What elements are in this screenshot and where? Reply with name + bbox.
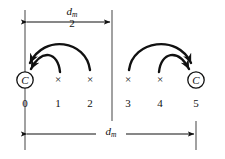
dimension-label-bottom: dm <box>96 126 126 137</box>
position-label-5: 5 <box>188 98 204 109</box>
diagram-canvas: dm 2 dm C × × × × C 0 1 2 3 4 5 <box>0 0 225 159</box>
node-label-3: × <box>120 74 136 85</box>
position-label-2: 2 <box>82 98 98 109</box>
position-label-0: 0 <box>17 98 33 109</box>
arrow-4-to-5 <box>159 55 189 72</box>
node-label-5: C <box>188 75 204 86</box>
dimension-top-numerator: dm <box>52 6 92 18</box>
arrow-1-to-0 <box>31 55 60 72</box>
position-label-1: 1 <box>50 98 66 109</box>
position-label-3: 3 <box>120 98 136 109</box>
node-label-1: × <box>50 74 66 85</box>
node-label-4: × <box>152 74 168 85</box>
node-label-2: × <box>82 74 98 85</box>
dimension-label-top: dm 2 <box>52 6 92 29</box>
node-label-0: C <box>17 75 33 86</box>
dimension-top-denominator: 2 <box>52 18 92 30</box>
position-label-4: 4 <box>152 98 168 109</box>
